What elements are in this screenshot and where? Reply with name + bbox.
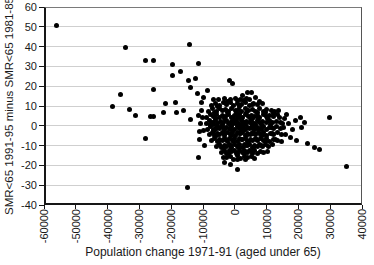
y-tick-mark bbox=[39, 125, 44, 126]
data-point bbox=[143, 136, 148, 141]
y-tick-mark bbox=[39, 7, 44, 8]
data-point bbox=[127, 107, 132, 112]
y-tick-mark bbox=[39, 46, 44, 47]
data-point bbox=[110, 104, 115, 109]
x-axis-title: Population change 1971-91 (aged under 65… bbox=[44, 245, 362, 259]
data-point bbox=[193, 76, 198, 81]
y-tick-mark bbox=[39, 26, 44, 27]
y-tick-mark bbox=[39, 86, 44, 87]
data-point bbox=[151, 87, 156, 92]
data-point bbox=[227, 78, 232, 83]
data-point bbox=[228, 162, 233, 167]
y-tick-label: 60 bbox=[9, 1, 37, 13]
data-point bbox=[215, 124, 220, 129]
data-point bbox=[269, 125, 274, 130]
y-tick-mark bbox=[39, 66, 44, 67]
data-point bbox=[163, 101, 168, 106]
data-point bbox=[279, 132, 284, 137]
data-point bbox=[312, 145, 317, 150]
y-tick-label: 20 bbox=[9, 80, 37, 92]
data-point bbox=[118, 92, 123, 97]
data-point bbox=[199, 100, 204, 105]
data-point bbox=[185, 185, 190, 190]
y-tick-label: 50 bbox=[9, 21, 37, 33]
scatter-plot-figure: SMR<65 1991-95 minus SMR<65 1981-85 -40-… bbox=[0, 0, 374, 265]
data-point bbox=[344, 164, 349, 169]
data-point bbox=[317, 147, 322, 152]
y-tick-label: -40 bbox=[9, 199, 37, 211]
y-tick-label: 40 bbox=[9, 41, 37, 53]
data-point bbox=[281, 125, 286, 130]
data-point bbox=[265, 149, 270, 154]
data-point bbox=[173, 100, 178, 105]
data-point bbox=[221, 155, 226, 160]
data-point bbox=[181, 108, 186, 113]
data-point bbox=[123, 45, 128, 50]
data-point bbox=[186, 78, 191, 83]
data-point bbox=[170, 73, 175, 78]
plot-area bbox=[44, 7, 362, 205]
y-tick-mark bbox=[39, 185, 44, 186]
y-tick-label: -30 bbox=[9, 179, 37, 191]
y-tick-label: 10 bbox=[9, 100, 37, 112]
y-tick-label: -10 bbox=[9, 140, 37, 152]
y-tick-label: 0 bbox=[9, 120, 37, 132]
data-point bbox=[199, 108, 204, 113]
data-point bbox=[259, 143, 264, 148]
y-tick-mark bbox=[39, 145, 44, 146]
data-point bbox=[201, 95, 206, 100]
data-point bbox=[195, 91, 200, 96]
data-point bbox=[222, 160, 227, 165]
data-point bbox=[270, 131, 275, 136]
data-point bbox=[235, 167, 240, 172]
data-point bbox=[187, 42, 192, 47]
y-tick-label: -20 bbox=[9, 159, 37, 171]
data-point bbox=[270, 142, 275, 147]
data-point bbox=[260, 101, 265, 106]
data-point bbox=[205, 88, 210, 93]
data-point bbox=[202, 143, 207, 148]
data-point bbox=[188, 85, 193, 90]
y-tick-mark bbox=[39, 106, 44, 107]
y-tick-mark bbox=[39, 165, 44, 166]
y-tick-label: 30 bbox=[9, 60, 37, 72]
